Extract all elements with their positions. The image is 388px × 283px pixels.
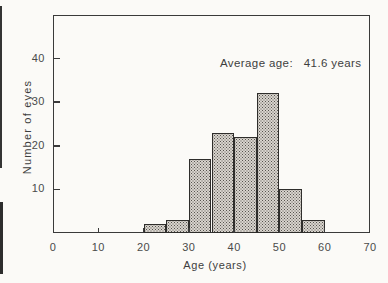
y-tick-label: 40 — [19, 52, 45, 64]
x-tick-label: 50 — [267, 241, 291, 253]
average-age-annotation: Average age: 41.6 years — [220, 57, 362, 69]
y-axis-title: Number of eyes — [21, 80, 33, 174]
x-tick-label: 30 — [177, 241, 201, 253]
x-tick-label: 10 — [86, 241, 110, 253]
x-tick — [188, 228, 190, 233]
histogram-bar — [144, 224, 167, 233]
x-tick-label: 0 — [41, 241, 65, 253]
x-tick-label: 20 — [132, 241, 156, 253]
x-tick — [233, 228, 235, 233]
x-tick-label: 40 — [222, 241, 246, 253]
histogram-bar — [234, 137, 257, 233]
histogram-bar — [166, 220, 189, 233]
histogram-bar — [189, 159, 212, 233]
y-tick — [54, 101, 60, 103]
x-tick-label: 70 — [358, 241, 382, 253]
histogram-plot: 01020304050607010203040 — [0, 0, 388, 283]
histogram-bar — [212, 133, 235, 233]
y-tick — [54, 58, 60, 60]
x-tick — [279, 228, 281, 233]
y-tick — [54, 189, 60, 191]
y-tick — [54, 145, 60, 147]
x-axis-title: Age (years) — [183, 259, 246, 271]
x-tick — [98, 228, 100, 233]
y-tick-label: 10 — [19, 182, 45, 194]
x-tick — [143, 228, 145, 233]
histogram-bar — [302, 220, 325, 233]
histogram-bar — [279, 189, 302, 233]
histogram-bar — [257, 93, 280, 233]
x-tick — [324, 228, 326, 233]
figure: 01020304050607010203040 Average age: 41.… — [0, 0, 388, 283]
x-tick-label: 60 — [313, 241, 337, 253]
